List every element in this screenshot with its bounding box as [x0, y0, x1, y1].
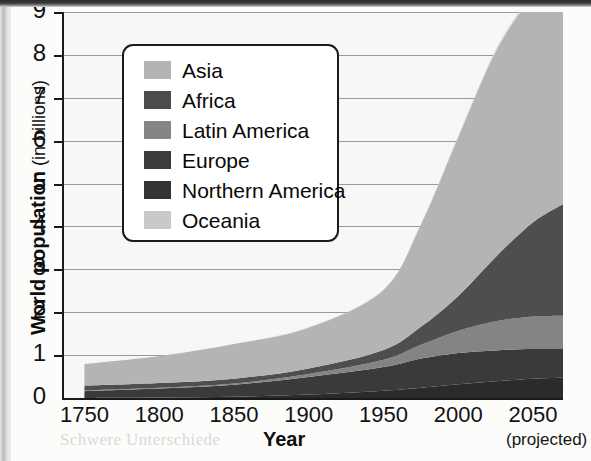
legend-swatch-icon — [144, 181, 171, 199]
y-axis-tick-label: 0 — [20, 382, 46, 410]
scan-left-edge-strip — [0, 0, 9, 461]
legend-item-label: Oceania — [182, 210, 260, 231]
y-axis-tick-label: 1 — [20, 339, 46, 367]
x-axis-tick-label: 1750 — [44, 402, 124, 428]
legend-item-label: Africa — [182, 90, 236, 111]
legend-swatch-icon — [144, 91, 171, 109]
legend-item-africa[interactable]: Africa — [144, 85, 337, 115]
y-axis-ticks — [54, 13, 62, 356]
scanned-page: ten die population des min- tehn ber sen… — [0, 0, 591, 461]
x-axis-tick-label: 1900 — [269, 402, 349, 428]
legend-item-label: Latin America — [182, 120, 309, 141]
x-axis-tick-label: 1850 — [194, 402, 274, 428]
legend-item-latin-america[interactable]: Latin America — [144, 115, 337, 145]
legend-swatch-icon — [144, 121, 171, 139]
x-axis-title: Year — [263, 428, 305, 451]
y-axis-title-main: World population — [27, 171, 49, 335]
legend-item-label: Northern America — [182, 180, 345, 201]
legend-item-europe[interactable]: Europe — [144, 145, 337, 175]
legend-item-label: Europe — [182, 150, 250, 171]
y-axis-title: World population (in billions) — [27, 78, 50, 338]
legend-swatch-icon — [144, 151, 171, 169]
x-axis-tick-label: 2000 — [418, 402, 498, 428]
x-axis-projected-note: (projected) — [506, 430, 587, 450]
x-axis-tick-label: 1950 — [344, 402, 424, 428]
y-axis-title-sub: (in billions) — [29, 80, 49, 171]
scan-top-edge-band — [0, 0, 591, 7]
legend-swatch-icon — [144, 61, 171, 79]
x-axis-tick-label: 2050 — [493, 402, 573, 428]
legend-swatch-icon — [144, 211, 171, 229]
chart-legend: AsiaAfricaLatin AmericaEuropeNorthern Am… — [122, 44, 339, 242]
legend-item-asia[interactable]: Asia — [144, 55, 337, 85]
y-axis-tick-label: 8 — [20, 39, 46, 67]
legend-item-northern-america[interactable]: Northern America — [144, 175, 337, 205]
legend-item-oceania[interactable]: Oceania — [144, 205, 337, 235]
x-axis-tick-label: 1800 — [119, 402, 199, 428]
legend-item-label: Asia — [182, 60, 223, 81]
